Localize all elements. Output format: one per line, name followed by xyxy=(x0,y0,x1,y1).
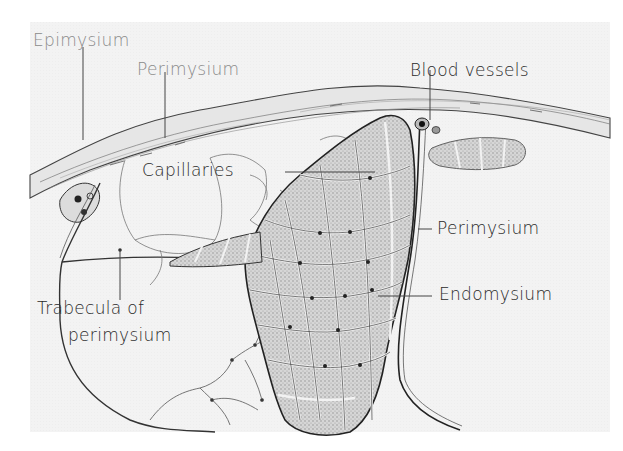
label-epimysium: Epimysium xyxy=(33,30,130,50)
label-blood-vessels: Blood vessels xyxy=(410,60,529,80)
label-capillaries: Capillaries xyxy=(142,160,234,180)
muscle-diagram: Epimysium Perimysium Blood vessels Capil… xyxy=(0,0,623,451)
label-perimysium-top: Perimysium xyxy=(137,59,239,79)
label-endomysium: Endomysium xyxy=(439,284,552,304)
label-trabecula-line2: perimysium xyxy=(68,325,172,345)
label-trabecula-line1: Trabecula of xyxy=(37,298,144,318)
label-perimysium-right: Perimysium xyxy=(437,218,539,238)
